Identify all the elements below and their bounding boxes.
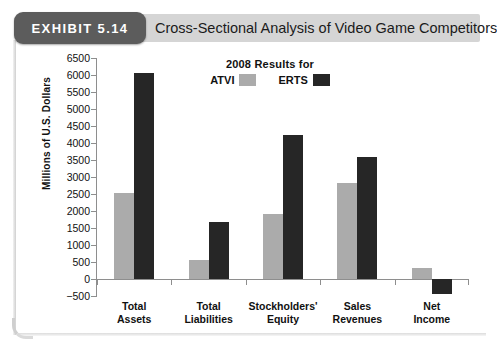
y-axis-tick-label: 1000 xyxy=(67,239,90,251)
bar-erts xyxy=(134,73,154,279)
x-axis-tick-label-line: Total xyxy=(184,300,232,313)
x-axis-tick-label-line: Stockholders' xyxy=(248,300,317,313)
y-axis-tick-label: 5500 xyxy=(67,86,90,98)
x-axis-tick-label: Stockholders'Equity xyxy=(248,300,317,326)
bar-erts xyxy=(432,279,452,294)
y-axis-tick-label: 2000 xyxy=(67,205,90,217)
x-axis-tick-label: NetIncome xyxy=(413,300,450,326)
y-axis-tick-label: 6500 xyxy=(67,52,90,64)
bar-erts xyxy=(209,222,229,279)
bar-atvi xyxy=(412,268,432,279)
zero-baseline xyxy=(97,279,469,280)
x-axis-tick-mark xyxy=(171,279,172,285)
x-axis-tick-label-line: Equity xyxy=(248,313,317,326)
bar-atvi xyxy=(337,183,357,279)
x-axis-tick-label-line: Assets xyxy=(117,313,151,326)
y-axis-tick-label: 0 xyxy=(84,273,90,285)
y-axis-tick-label: −500 xyxy=(66,290,90,302)
x-axis-tick-mark xyxy=(320,279,321,285)
x-axis-tick-label: SalesRevenues xyxy=(333,300,383,326)
x-axis-tick-label-line: Net xyxy=(413,300,450,313)
x-axis-tick-label-line: Income xyxy=(413,313,450,326)
bar-atvi xyxy=(114,193,134,279)
y-axis-tick-label: 3000 xyxy=(67,171,90,183)
y-axis-tick-label: 2500 xyxy=(67,188,90,200)
y-axis-tick-label: 500 xyxy=(72,256,90,268)
x-axis-tick-label: TotalAssets xyxy=(117,300,151,326)
x-axis-tick-labels: TotalAssetsTotalLiabilitiesStockholders'… xyxy=(97,300,469,334)
x-axis-tick-label: TotalLiabilities xyxy=(184,300,232,326)
y-axis-tick-label: 4000 xyxy=(67,137,90,149)
y-axis-tick-labels: 6500600055005000450040003500300025002000… xyxy=(46,58,90,296)
y-axis-tick-label: 3500 xyxy=(67,154,90,166)
bar-erts xyxy=(357,157,377,279)
y-axis-tick-mark xyxy=(91,296,97,297)
bar-atvi xyxy=(189,260,209,279)
x-axis-tick-label-line: Liabilities xyxy=(184,313,232,326)
bar-atvi xyxy=(263,214,283,279)
bar-erts xyxy=(283,135,303,280)
x-axis-tick-label-line: Revenues xyxy=(333,313,383,326)
x-axis-tick-label-line: Total xyxy=(117,300,151,313)
x-axis-tick-mark xyxy=(97,279,98,285)
x-axis-tick-mark xyxy=(395,279,396,285)
y-axis-tick-label: 1500 xyxy=(67,222,90,234)
x-axis-tick-label-line: Sales xyxy=(333,300,383,313)
x-axis-tick-mark xyxy=(468,279,469,285)
y-axis-tick-label: 6000 xyxy=(67,69,90,81)
y-axis-tick-label: 5000 xyxy=(67,103,90,115)
y-axis-tick-label: 4500 xyxy=(67,120,90,132)
x-axis-tick-mark xyxy=(246,279,247,285)
plot-area xyxy=(97,58,469,296)
